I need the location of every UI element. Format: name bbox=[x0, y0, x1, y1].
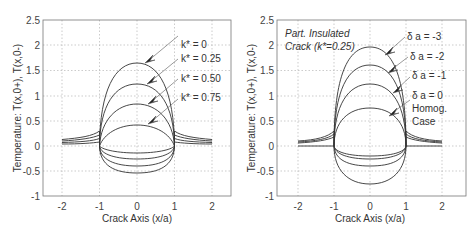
arrow-icon bbox=[385, 47, 395, 55]
right-upper-da-3 bbox=[334, 47, 406, 146]
svg-text:2.5: 2.5 bbox=[26, 15, 40, 26]
svg-text:-0.5: -0.5 bbox=[23, 166, 41, 177]
svg-text:0.5: 0.5 bbox=[260, 116, 274, 127]
svg-text:1.5: 1.5 bbox=[260, 65, 274, 76]
label-k0: k* = 0 bbox=[181, 39, 207, 50]
svg-text:0.5: 0.5 bbox=[26, 116, 40, 127]
svg-text:-1: -1 bbox=[330, 201, 339, 212]
label-da0: δ a = 0 bbox=[412, 90, 443, 101]
right-note-line2: Crack (k*=0.25) bbox=[285, 41, 355, 52]
label-da-1: δ a = -1 bbox=[412, 70, 447, 81]
svg-text:2: 2 bbox=[34, 40, 40, 51]
svg-text:-1: -1 bbox=[265, 191, 274, 202]
label-case: Case bbox=[412, 116, 436, 127]
label-k050: k* = 0.50 bbox=[181, 73, 221, 84]
left-y-axis-label: Temperature: T(x,0+), T(x,0-) bbox=[12, 44, 23, 172]
svg-text:2.5: 2.5 bbox=[260, 15, 274, 26]
right-y-axis-label: Temperature: T(x,0+), T(x,0-) bbox=[246, 44, 257, 172]
svg-text:-2: -2 bbox=[58, 201, 67, 212]
left-x-axis-label: Crack Axis (x/a) bbox=[102, 213, 172, 224]
svg-text:-1: -1 bbox=[31, 191, 40, 202]
svg-text:0: 0 bbox=[367, 201, 373, 212]
arrow-icon bbox=[388, 65, 398, 73]
svg-text:0: 0 bbox=[134, 201, 140, 212]
label-homog: Homog. bbox=[412, 103, 447, 114]
figure: 2.5 2 1.5 1 0.5 0 -0.5 -1 -2 -1 0 1 2 Cr… bbox=[0, 0, 470, 232]
svg-text:1: 1 bbox=[34, 91, 40, 102]
right-x-axis-label: Crack Axis (x/a) bbox=[335, 213, 405, 224]
right-tail-right-1 bbox=[406, 131, 442, 141]
left-chart: 2.5 2 1.5 1 0.5 0 -0.5 -1 -2 -1 0 1 2 Cr… bbox=[12, 15, 231, 224]
left-x-ticks: -2 -1 0 1 2 bbox=[58, 201, 216, 212]
right-note-line1: Part. Insulated bbox=[285, 28, 350, 39]
left-tail-left-k0 bbox=[62, 131, 100, 140]
label-k075: k* = 0.75 bbox=[181, 92, 221, 103]
svg-text:2: 2 bbox=[439, 201, 445, 212]
right-x-ticks: -2 -1 0 1 2 bbox=[294, 201, 446, 212]
svg-text:2: 2 bbox=[209, 201, 215, 212]
svg-text:0: 0 bbox=[268, 141, 274, 152]
svg-text:1: 1 bbox=[403, 201, 409, 212]
svg-text:1.5: 1.5 bbox=[26, 65, 40, 76]
label-k025: k* = 0.25 bbox=[181, 53, 221, 64]
svg-text:1: 1 bbox=[268, 91, 274, 102]
label-da-2: δ a = -2 bbox=[410, 51, 445, 62]
svg-text:0: 0 bbox=[34, 141, 40, 152]
svg-text:-1: -1 bbox=[95, 201, 104, 212]
svg-text:2: 2 bbox=[268, 40, 274, 51]
left-series-labels: k* = 0 k* = 0.25 k* = 0.50 k* = 0.75 bbox=[181, 39, 221, 103]
svg-text:-2: -2 bbox=[294, 201, 303, 212]
left-tail-right-k0 bbox=[175, 131, 213, 140]
left-y-ticks: 2.5 2 1.5 1 0.5 0 -0.5 -1 bbox=[23, 15, 41, 202]
right-tail-left-1 bbox=[298, 131, 334, 141]
right-series-labels: δ a = -3 δ a = -2 δ a = -1 δ a = 0 Homog… bbox=[407, 31, 447, 127]
right-y-ticks: 2.5 2 1.5 1 0.5 0 -0.5 -1 bbox=[257, 15, 275, 202]
svg-text:1: 1 bbox=[172, 201, 178, 212]
svg-text:-0.5: -0.5 bbox=[257, 166, 275, 177]
right-chart: 2.5 2 1.5 1 0.5 0 -0.5 -1 -2 -1 0 1 2 Cr… bbox=[246, 15, 466, 224]
label-da-3: δ a = -3 bbox=[407, 31, 442, 42]
